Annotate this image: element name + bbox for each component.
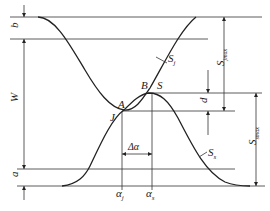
point-s-label: S bbox=[157, 79, 163, 91]
sj-curve-label: Sj bbox=[168, 52, 176, 67]
delta-alpha-label: Δα bbox=[127, 141, 140, 152]
sjmax-label: Sjmax bbox=[214, 49, 228, 67]
point-a-label: A bbox=[117, 98, 125, 110]
alpha-j-label: αj bbox=[116, 187, 124, 202]
ss-curve-label: Ss bbox=[208, 146, 217, 161]
b-label: b bbox=[8, 22, 20, 28]
a-label: a bbox=[8, 171, 20, 177]
ss-leader-line bbox=[199, 152, 207, 157]
point-b-label: B bbox=[141, 79, 148, 91]
lift-overlap-diagram: b W a Sj Ss A J B S d Sjmax Ssmax Δα αj … bbox=[0, 0, 270, 211]
curve-ss bbox=[62, 93, 250, 186]
ssmax-label: Ssmax bbox=[246, 127, 260, 145]
point-j-label: J bbox=[110, 111, 116, 123]
w-label: W bbox=[8, 92, 20, 102]
alpha-s-label: αs bbox=[146, 187, 155, 202]
d-label: d bbox=[197, 97, 209, 103]
